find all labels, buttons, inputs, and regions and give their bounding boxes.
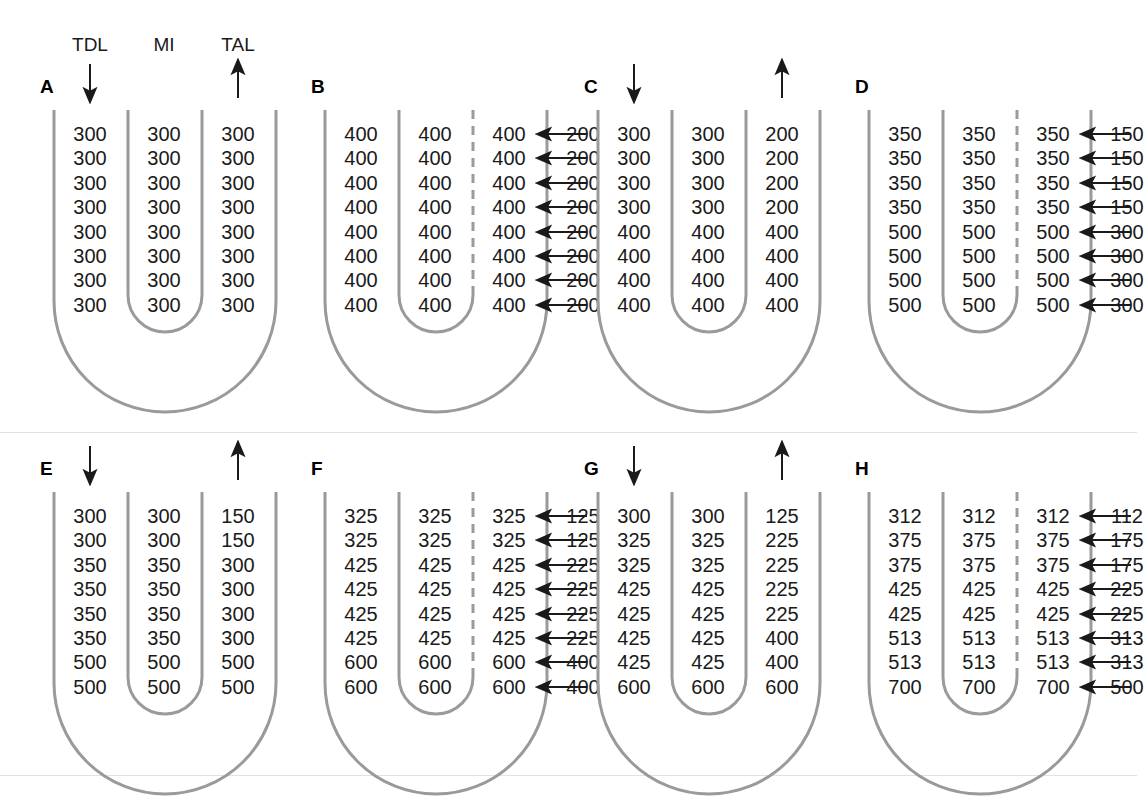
value-mi: 500 <box>136 675 192 699</box>
value-tal: 300 <box>210 220 266 244</box>
value-mi: 300 <box>136 528 192 552</box>
solute-transport-arrow <box>1079 508 1133 524</box>
value-mi: 400 <box>680 244 736 268</box>
value-tdl: 300 <box>62 195 118 219</box>
value-tdl: 300 <box>62 528 118 552</box>
value-tal: 400 <box>754 293 810 317</box>
value-mi: 300 <box>136 293 192 317</box>
solute-transport-arrow <box>1079 224 1133 240</box>
value-tal: 300 <box>210 577 266 601</box>
value-mi: 425 <box>680 650 736 674</box>
value-mi: 300 <box>680 171 736 195</box>
value-tal: 500 <box>1025 268 1081 292</box>
value-mi: 325 <box>407 528 463 552</box>
value-tdl: 500 <box>877 220 933 244</box>
value-tdl: 400 <box>333 122 389 146</box>
value-mi: 300 <box>136 195 192 219</box>
value-mi: 350 <box>951 171 1007 195</box>
value-tal: 425 <box>1025 577 1081 601</box>
value-mi: 312 <box>951 504 1007 528</box>
value-tal: 350 <box>1025 122 1081 146</box>
value-mi: 400 <box>407 244 463 268</box>
value-mi: 500 <box>951 220 1007 244</box>
value-tal: 500 <box>1025 244 1081 268</box>
value-tal: 400 <box>481 171 537 195</box>
value-tdl: 350 <box>877 146 933 170</box>
value-mi: 325 <box>680 528 736 552</box>
value-mi: 350 <box>136 602 192 626</box>
solute-transport-arrow <box>1079 679 1133 695</box>
value-mi: 350 <box>951 195 1007 219</box>
solute-transport-arrow <box>535 606 589 622</box>
value-tdl: 400 <box>333 268 389 292</box>
value-tdl: 325 <box>333 504 389 528</box>
value-mi: 325 <box>407 504 463 528</box>
value-mi: 425 <box>680 626 736 650</box>
value-mi: 513 <box>951 650 1007 674</box>
value-tal: 225 <box>754 602 810 626</box>
value-tal: 300 <box>210 122 266 146</box>
solute-transport-arrow <box>535 630 589 646</box>
value-tal: 425 <box>481 626 537 650</box>
value-tal: 700 <box>1025 675 1081 699</box>
value-mi: 350 <box>951 146 1007 170</box>
value-tdl: 350 <box>877 122 933 146</box>
value-tdl: 425 <box>877 602 933 626</box>
value-mi: 513 <box>951 626 1007 650</box>
value-mi: 400 <box>407 146 463 170</box>
value-mi: 425 <box>680 602 736 626</box>
value-tal: 400 <box>754 244 810 268</box>
value-tal: 400 <box>481 268 537 292</box>
value-mi: 600 <box>407 650 463 674</box>
value-tdl: 400 <box>333 195 389 219</box>
value-tal: 425 <box>1025 602 1081 626</box>
solute-transport-arrow <box>535 126 589 142</box>
value-mi: 350 <box>136 577 192 601</box>
value-mi: 375 <box>951 553 1007 577</box>
solute-transport-arrow <box>535 272 589 288</box>
solute-transport-arrow <box>1079 557 1133 573</box>
value-tal: 400 <box>481 293 537 317</box>
value-tal: 200 <box>754 171 810 195</box>
value-tal: 425 <box>481 602 537 626</box>
value-tdl: 400 <box>606 293 662 317</box>
value-tdl: 425 <box>606 650 662 674</box>
value-mi: 425 <box>407 577 463 601</box>
value-tal: 125 <box>754 504 810 528</box>
value-mi: 400 <box>407 195 463 219</box>
value-tal: 400 <box>481 244 537 268</box>
solute-transport-arrow <box>535 532 589 548</box>
solute-transport-arrow <box>535 679 589 695</box>
value-tal: 500 <box>210 650 266 674</box>
value-tdl: 300 <box>62 293 118 317</box>
value-mi: 425 <box>407 602 463 626</box>
value-mi: 300 <box>136 122 192 146</box>
value-mi: 500 <box>951 293 1007 317</box>
value-tal: 325 <box>481 528 537 552</box>
value-tdl: 312 <box>877 504 933 528</box>
scan-artifact-line-upper <box>0 432 1137 433</box>
value-tal: 600 <box>481 650 537 674</box>
value-tdl: 400 <box>606 268 662 292</box>
value-tdl: 425 <box>333 602 389 626</box>
value-tal: 400 <box>481 220 537 244</box>
value-mi: 300 <box>136 220 192 244</box>
solute-transport-arrow <box>1079 272 1133 288</box>
value-mi: 400 <box>407 293 463 317</box>
value-tal: 600 <box>754 675 810 699</box>
value-tal: 513 <box>1025 650 1081 674</box>
value-tdl: 600 <box>333 675 389 699</box>
solute-transport-arrow <box>1079 630 1133 646</box>
value-tdl: 400 <box>606 220 662 244</box>
value-tal: 350 <box>1025 171 1081 195</box>
value-tal: 300 <box>210 195 266 219</box>
value-tal: 300 <box>210 146 266 170</box>
value-mi: 325 <box>680 553 736 577</box>
value-tal: 350 <box>1025 195 1081 219</box>
value-tdl: 500 <box>62 675 118 699</box>
value-tdl: 300 <box>606 171 662 195</box>
value-tal: 200 <box>754 122 810 146</box>
value-tal: 350 <box>1025 146 1081 170</box>
value-tdl: 400 <box>333 244 389 268</box>
